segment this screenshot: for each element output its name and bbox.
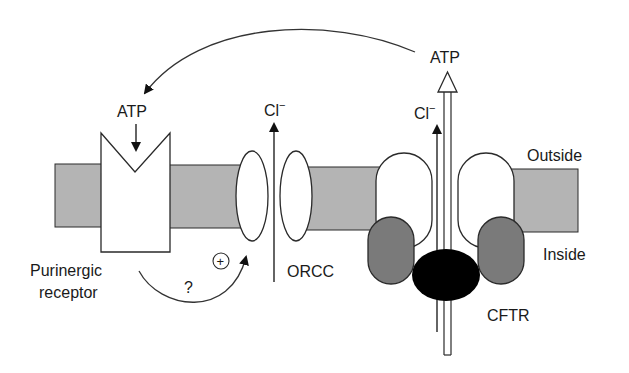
receptor-shape [101,133,170,252]
atp-efflux-arrow [438,72,457,355]
membrane-segment-mid1 [168,165,244,228]
cftr-label: CFTR [487,307,530,324]
purinergic-label-line1: Purinergic [30,262,102,279]
atp-top-label: ATP [430,49,460,66]
membrane-segment-right [508,169,578,232]
orcc-label: ORCC [287,263,334,280]
cl-orcc-label: Cl− [264,99,286,119]
inside-label: Inside [543,246,586,263]
atp-feedback-arrow [145,29,415,93]
cftr-nbd-right [478,217,524,284]
purinergic-receptor: ATP [101,103,170,252]
cftr-atp-diagram: ATP Cl− ORCC Cl− ATP CFTR ? + [0,0,629,373]
cftr-regulatory-domain [412,249,480,301]
orcc-subunit-right [280,151,312,241]
membrane-segment-left [55,164,103,227]
plus-sign: + [217,254,225,269]
receptor-to-orcc-activation: ? + [139,253,246,302]
question-label: ? [184,279,193,296]
cl-cftr-label: Cl− [414,102,436,122]
cftr-channel: Cl− ATP CFTR [368,49,530,355]
orcc-subunit-left [236,151,268,241]
purinergic-label-line2: receptor [39,284,98,301]
membrane-segment-mid2 [306,167,386,230]
atp-receptor-label: ATP [117,103,147,120]
outside-label: Outside [527,147,582,164]
cftr-nbd-left [368,217,414,284]
